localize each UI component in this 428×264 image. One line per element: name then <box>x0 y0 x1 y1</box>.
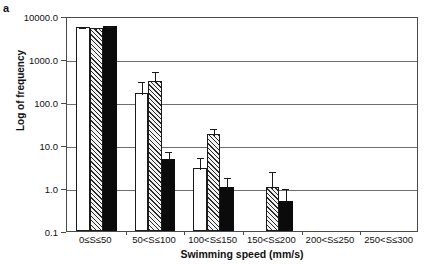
bar <box>90 28 104 231</box>
y-tick-label: 10.0 <box>40 141 59 152</box>
plot-area <box>66 17 418 232</box>
gridline <box>67 61 417 62</box>
error-bar <box>272 172 273 189</box>
y-tick-label: 100.0 <box>34 98 58 109</box>
error-bar-cap <box>282 189 289 190</box>
x-category-label: 150<S≤200 <box>247 234 296 245</box>
gridline <box>67 104 417 105</box>
x-category-label: 250<S≤300 <box>364 234 413 245</box>
bar <box>207 134 221 231</box>
bar <box>103 26 117 231</box>
bar <box>148 81 162 231</box>
error-bar-cap <box>152 72 159 73</box>
error-bar-cap <box>138 82 145 83</box>
y-tick-label: 1.0 <box>45 184 58 195</box>
bar <box>193 168 207 231</box>
error-bar-cap <box>165 152 172 153</box>
x-category-label: 0≤S≤50 <box>79 234 112 245</box>
error-bar-cap <box>210 129 217 130</box>
x-category-label: 100<S≤150 <box>188 234 237 245</box>
error-bar <box>227 178 228 189</box>
error-bar-cap <box>79 28 86 29</box>
error-bar <box>200 158 201 170</box>
error-bar-cap <box>197 158 204 159</box>
x-category-label: 200<S≤250 <box>306 234 355 245</box>
y-axis-ticks: 0.11.010.0100.01000.010000.0 <box>0 0 66 264</box>
x-category-label: 50<S≤100 <box>132 234 176 245</box>
y-tick-mark <box>61 232 66 233</box>
y-tick-label: 1000.0 <box>29 55 58 66</box>
error-bar-cap <box>106 27 113 28</box>
error-bar <box>214 129 215 136</box>
error-bar <box>169 152 170 160</box>
error-bar <box>155 72 156 84</box>
gridline <box>67 190 417 191</box>
error-bar <box>286 189 287 203</box>
y-tick-label: 10000.0 <box>24 12 58 23</box>
error-bar-cap <box>93 28 100 29</box>
y-tick-label: 0.1 <box>45 227 58 238</box>
bar <box>279 201 293 231</box>
bar <box>220 187 234 231</box>
x-axis-title: Swimming speed (mm/s) <box>66 248 418 260</box>
error-bar <box>142 82 143 96</box>
gridline <box>67 147 417 148</box>
error-bar-cap <box>224 178 231 179</box>
bar <box>266 187 280 231</box>
bar <box>76 27 90 231</box>
bar <box>135 93 149 231</box>
bar <box>162 159 176 231</box>
error-bar-cap <box>269 172 276 173</box>
